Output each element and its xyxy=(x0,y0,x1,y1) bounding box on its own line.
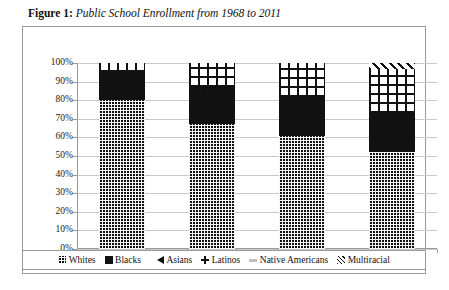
bar-segment[interactable] xyxy=(99,100,145,249)
stacked-bar[interactable] xyxy=(279,63,325,249)
y-axis-tick-label: 40% xyxy=(56,170,73,180)
bar-slot xyxy=(167,63,257,249)
figure-number: Figure 1 xyxy=(28,7,69,19)
bar-slot xyxy=(257,63,347,249)
bar-slot xyxy=(347,63,437,249)
legend-item[interactable]: Native Americans xyxy=(249,255,328,265)
figure-title: Public School Enrollment from 1968 to 20… xyxy=(76,7,281,19)
y-axis-tick-label: 80% xyxy=(56,95,73,105)
stacked-bar[interactable] xyxy=(99,63,145,249)
legend-item-label: Whites xyxy=(69,255,96,265)
multiracial-swatch-icon xyxy=(337,256,345,264)
diamond-icon xyxy=(312,97,325,104)
legend-item[interactable]: Multiracial xyxy=(337,255,390,265)
y-axis-tick-label: 50% xyxy=(56,151,73,161)
figure-container: Figure 1: Public School Enrollment from … xyxy=(0,0,449,290)
y-axis-labels: 100%90%80%70%60%50%40%30%20%10%0% xyxy=(39,63,73,249)
y-axis-tick-label: 30% xyxy=(56,188,73,198)
bar-segment[interactable] xyxy=(369,69,415,114)
caption-separator: : xyxy=(69,7,76,19)
y-axis-tick-label: 60% xyxy=(56,133,73,143)
asians-swatch-icon xyxy=(150,256,164,264)
whites-swatch-icon xyxy=(58,256,66,264)
legend-item[interactable]: Latinos xyxy=(201,255,240,265)
bar-segment[interactable] xyxy=(189,124,235,249)
latinos-swatch-icon xyxy=(201,256,209,264)
legend-item-label: Latinos xyxy=(212,255,241,265)
figure-caption: Figure 1: Public School Enrollment from … xyxy=(28,6,281,20)
bar-segment[interactable] xyxy=(369,123,415,153)
legend-item[interactable]: Blacks xyxy=(105,255,141,265)
chart-legend: WhitesBlacksAsiansLatinosNative American… xyxy=(22,250,426,270)
bar-segment[interactable] xyxy=(279,63,325,96)
legend-item[interactable]: Whites xyxy=(58,255,95,265)
bar-segment[interactable] xyxy=(369,113,415,122)
chart-frame: 100%90%80%70%60%50%40%30%20%10%0% 196819… xyxy=(22,26,426,274)
legend-item-label: Multiracial xyxy=(348,255,390,265)
bar-segment[interactable] xyxy=(99,63,145,72)
stacked-bar[interactable] xyxy=(369,63,415,249)
diamond-icon xyxy=(402,113,415,122)
bar-segment[interactable] xyxy=(369,152,415,249)
blacks-swatch-icon xyxy=(105,256,113,264)
legend-item-label: Asians xyxy=(166,255,192,265)
bar-segment[interactable] xyxy=(189,87,235,94)
bar-slot xyxy=(77,63,167,249)
legend-item-label: Blacks xyxy=(115,255,141,265)
bar-segment[interactable] xyxy=(279,136,325,249)
bar-segment[interactable] xyxy=(99,72,145,100)
legend-item[interactable]: Asians xyxy=(150,255,192,265)
y-axis-tick-label: 70% xyxy=(56,114,73,124)
native-americans-swatch-icon xyxy=(249,259,257,262)
y-axis-tick-label: 20% xyxy=(56,207,73,217)
diamond-icon xyxy=(222,87,235,94)
bar-segment[interactable] xyxy=(279,97,325,104)
bar-segment[interactable] xyxy=(189,63,235,87)
y-axis-tick-label: 100% xyxy=(51,58,73,68)
stacked-bar[interactable] xyxy=(189,63,235,249)
bar-segment[interactable] xyxy=(369,63,415,69)
x-axis-tickmark xyxy=(437,249,438,253)
y-axis-tick-label: 10% xyxy=(56,226,73,236)
legend-item-label: Native Americans xyxy=(260,255,328,265)
bar-segment[interactable] xyxy=(189,95,235,125)
plot-area xyxy=(77,63,437,249)
bar-series-container xyxy=(77,63,437,249)
y-axis-tick-label: 90% xyxy=(56,77,73,87)
bar-segment[interactable] xyxy=(279,104,325,136)
